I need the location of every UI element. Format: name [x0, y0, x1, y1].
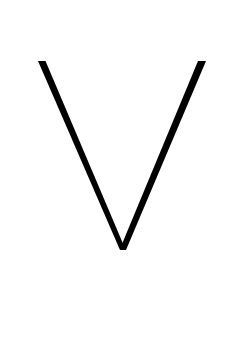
letter-v-left-stroke: [38, 61, 124, 250]
letter-v-glyph: [0, 0, 238, 363]
canvas: V: [0, 0, 238, 363]
letter-v-right-stroke: [120, 61, 206, 250]
